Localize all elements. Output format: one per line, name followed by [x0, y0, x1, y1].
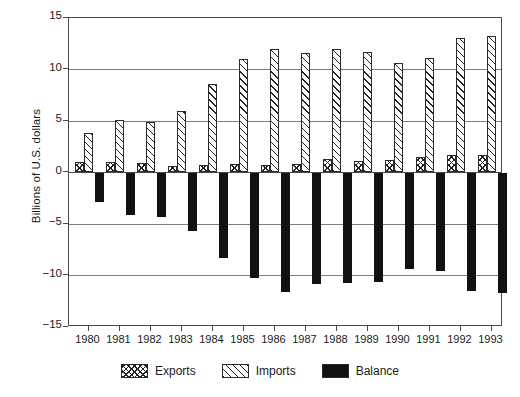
- bar-exports: [137, 163, 146, 172]
- y-tick-label: 15: [18, 9, 62, 21]
- x-tick-label: 1993: [474, 333, 508, 345]
- legend-swatch-balance: [322, 364, 349, 378]
- y-tick-label: 10: [18, 61, 62, 73]
- y-tick-label: −5: [18, 215, 62, 227]
- x-tick-label: 1987: [288, 333, 322, 345]
- bar-imports: [363, 52, 372, 173]
- bar-exports: [106, 162, 115, 172]
- bar-imports: [332, 49, 341, 173]
- x-tick-mark: [181, 326, 182, 331]
- bar-exports: [385, 160, 394, 172]
- bar-imports: [394, 63, 403, 172]
- x-tick-mark: [398, 326, 399, 331]
- y-tick-label: 0: [18, 164, 62, 176]
- x-tick-mark: [305, 326, 306, 331]
- legend-label: Exports: [155, 364, 196, 378]
- bar-exports: [261, 165, 270, 172]
- legend-swatch-imports: [222, 364, 249, 378]
- bar-exports: [199, 165, 208, 172]
- x-tick-mark: [336, 326, 337, 331]
- x-tick-mark: [460, 326, 461, 331]
- bar-balance: [343, 173, 352, 283]
- bar-imports: [270, 49, 279, 173]
- bar-exports: [230, 164, 239, 172]
- gridline: [69, 69, 501, 70]
- bar-imports: [177, 111, 186, 173]
- x-tick-mark: [150, 326, 151, 331]
- bar-balance: [188, 173, 197, 232]
- bar-balance: [436, 173, 445, 272]
- bar-balance: [312, 173, 321, 284]
- legend-item: Exports: [121, 364, 196, 378]
- legend-label: Imports: [256, 364, 296, 378]
- bar-balance: [281, 173, 290, 292]
- x-tick-label: 1980: [71, 333, 105, 345]
- bar-exports: [354, 161, 363, 172]
- x-tick-label: 1984: [195, 333, 229, 345]
- x-tick-label: 1983: [164, 333, 198, 345]
- x-tick-mark: [243, 326, 244, 331]
- x-tick-label: 1988: [319, 333, 353, 345]
- bar-exports: [323, 159, 332, 172]
- x-tick-label: 1990: [381, 333, 415, 345]
- x-tick-mark: [491, 326, 492, 331]
- bar-balance: [250, 173, 259, 278]
- bar-balance: [467, 173, 476, 291]
- x-tick-label: 1985: [226, 333, 260, 345]
- bar-balance: [126, 173, 135, 215]
- chart-figure: Billions of U.S. dollars 151050−5−10−15 …: [0, 0, 520, 397]
- x-tick-label: 1986: [257, 333, 291, 345]
- bar-balance: [157, 173, 166, 217]
- bar-exports: [75, 162, 84, 172]
- x-tick-label: 1982: [133, 333, 167, 345]
- legend-label: Balance: [356, 364, 399, 378]
- bar-exports: [168, 166, 177, 172]
- x-tick-mark: [212, 326, 213, 331]
- x-tick-label: 1981: [102, 333, 136, 345]
- bar-balance: [405, 173, 414, 270]
- bar-imports: [84, 133, 93, 172]
- bar-exports: [478, 155, 487, 173]
- bar-imports: [239, 59, 248, 172]
- bar-imports: [456, 38, 465, 173]
- x-tick-mark: [88, 326, 89, 331]
- gridline: [69, 121, 501, 122]
- bar-balance: [95, 173, 104, 203]
- bar-imports: [487, 36, 496, 173]
- bar-imports: [115, 120, 124, 173]
- y-tick-label: −15: [18, 318, 62, 330]
- bar-imports: [208, 84, 217, 173]
- plot-area: [68, 17, 502, 326]
- bar-balance: [374, 173, 383, 282]
- x-tick-label: 1989: [350, 333, 384, 345]
- bar-balance: [498, 173, 507, 294]
- bar-imports: [146, 122, 155, 172]
- x-tick-mark: [274, 326, 275, 331]
- legend-item: Imports: [222, 364, 296, 378]
- x-tick-mark: [119, 326, 120, 331]
- y-tick-label: 5: [18, 112, 62, 124]
- bar-exports: [447, 155, 456, 173]
- bar-exports: [292, 164, 301, 172]
- bar-imports: [301, 53, 310, 172]
- x-tick-label: 1992: [443, 333, 477, 345]
- bar-imports: [425, 58, 434, 172]
- chart-legend: ExportsImportsBalance: [0, 364, 520, 378]
- bar-balance: [219, 173, 228, 258]
- legend-item: Balance: [322, 364, 399, 378]
- x-tick-mark: [429, 326, 430, 331]
- legend-swatch-exports: [121, 364, 148, 378]
- bar-exports: [416, 157, 425, 172]
- x-tick-label: 1991: [412, 333, 446, 345]
- y-tick-label: −10: [18, 267, 62, 279]
- x-tick-mark: [367, 326, 368, 331]
